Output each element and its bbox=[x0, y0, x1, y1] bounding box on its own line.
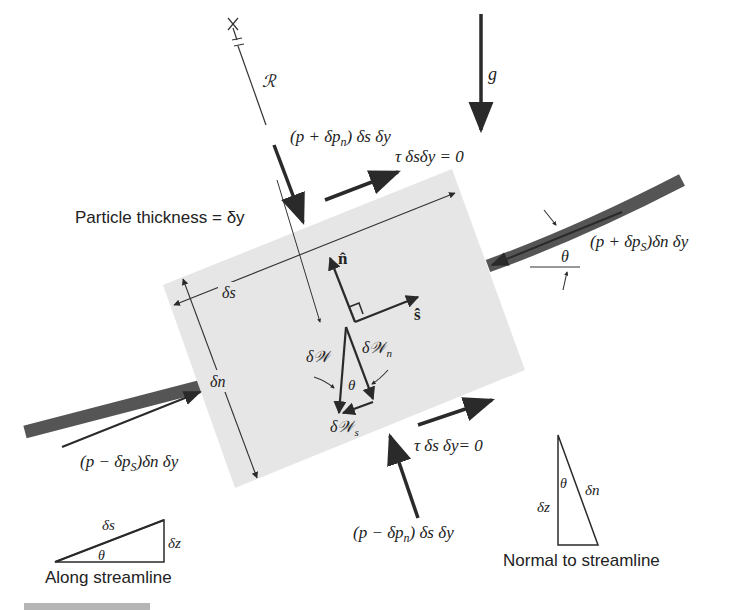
gravity-label: g bbox=[488, 64, 497, 84]
weight-label: δ𝒲 bbox=[306, 348, 334, 365]
along-hyp-label: δs bbox=[102, 517, 115, 533]
normal-caption: Normal to streamline bbox=[503, 551, 660, 570]
n-hat-label: n̂ bbox=[338, 249, 348, 268]
theta-weight-label: θ bbox=[348, 377, 356, 393]
footer-bar bbox=[24, 603, 150, 610]
particle-thickness-label: Particle thickness = δy bbox=[75, 208, 245, 227]
normal-side-label: δz bbox=[537, 499, 550, 515]
delta-n-label: δn bbox=[210, 373, 225, 390]
top-pressure-label: (p + δpn) δs δy bbox=[290, 127, 391, 149]
bottom-shear-label: τ δs δy= 0 bbox=[414, 436, 483, 455]
radius-label: ℛ bbox=[262, 72, 277, 91]
top-shear-label: τ δsδy = 0 bbox=[395, 147, 464, 166]
s-hat-label: ŝ bbox=[414, 305, 421, 324]
normal-angle-label: θ bbox=[560, 476, 567, 491]
right-pressure-label: (p + δpS)δn δy bbox=[590, 232, 689, 254]
normal-hyp-label: δn bbox=[585, 482, 599, 498]
diagram-canvas: ℛ g (p + δpn) δs δy τ δsδy = 0 Particle … bbox=[0, 0, 752, 610]
along-angle-label: θ bbox=[98, 548, 105, 563]
delta-s-label: δs bbox=[222, 284, 236, 301]
along-caption: Along streamline bbox=[45, 568, 172, 587]
free-body-diagram: ℛ g (p + δpn) δs δy τ δsδy = 0 Particle … bbox=[0, 0, 752, 610]
theta-right-label: θ bbox=[561, 248, 569, 265]
left-pressure-label: (p − δpS)δn δy bbox=[80, 452, 179, 474]
bottom-pressure-label: (p − δpn) δs δy bbox=[353, 523, 454, 545]
along-side-label: δz bbox=[168, 535, 181, 551]
streamline-right bbox=[488, 180, 682, 266]
